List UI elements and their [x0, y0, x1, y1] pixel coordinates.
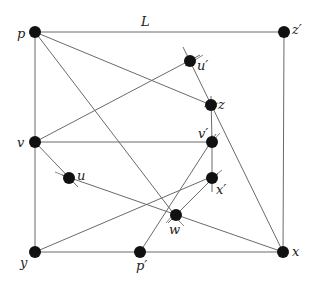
edge-p-z	[35, 32, 211, 105]
edge-y-x-prime	[35, 174, 218, 252]
node-p	[29, 26, 41, 38]
label-x: x	[292, 244, 300, 259]
node-v	[29, 136, 41, 148]
node-z	[205, 99, 217, 111]
node-ticks	[55, 55, 222, 226]
label-v: v	[17, 135, 25, 150]
node-w	[170, 209, 182, 221]
label-p-prime: p′	[136, 258, 147, 273]
label-v-prime: v′	[198, 126, 208, 141]
node-z-prime	[278, 26, 290, 38]
edge-label-L: L	[140, 14, 150, 29]
label-z: z	[217, 97, 225, 112]
label-u: u	[77, 168, 85, 183]
node-u-prime	[184, 55, 196, 67]
label-u-prime: u′	[197, 58, 208, 73]
label-z-prime: z′	[291, 22, 302, 37]
node-p-prime	[134, 246, 146, 258]
edge-v-u-prime	[35, 55, 200, 142]
edge-p-w	[35, 32, 180, 222]
edge-z-prime-x	[283, 32, 284, 252]
node-x	[277, 246, 289, 258]
node-u	[63, 172, 75, 184]
edges	[35, 32, 284, 252]
node-y	[29, 246, 41, 258]
label-w: w	[169, 222, 180, 237]
edge-u-prime-x	[183, 47, 283, 252]
label-p: p	[17, 26, 26, 41]
labels: L p z′ u′ z v v′ u x′ w y p′ x	[17, 14, 302, 273]
graph-diagram: L p z′ u′ z v v′ u x′ w y p′ x	[0, 0, 315, 284]
label-y: y	[19, 255, 28, 270]
label-x-prime: x′	[216, 182, 226, 197]
